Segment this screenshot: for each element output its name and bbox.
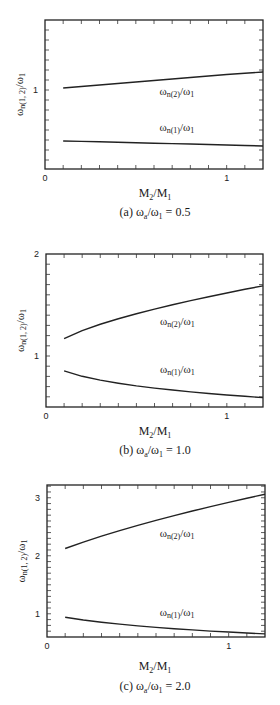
- y-tick-label: 1: [34, 351, 39, 361]
- x-axis-label-c: M2/M1: [0, 659, 280, 675]
- y-tick-label: 2: [34, 249, 39, 259]
- tick-marks: [45, 20, 263, 169]
- y-axis-label: ωn(1, 2)/ω1: [15, 540, 29, 583]
- tick-marks: [47, 485, 265, 637]
- series-label-n1: ωn(1)/ω1: [159, 121, 194, 135]
- x-tick-label: 0: [42, 173, 47, 183]
- chart-c: 01123ωn(1, 2)/ω1ωn(2)/ω1ωn(1)/ω1: [15, 485, 265, 651]
- y-tick-label: 1: [35, 609, 40, 619]
- x-tick-label: 0: [43, 411, 48, 421]
- plot-frame: [45, 20, 263, 169]
- series-label-n2: ωn(2)/ω1: [159, 85, 194, 99]
- x-tick-label: 0: [44, 641, 49, 651]
- series-line-n1: [63, 141, 263, 146]
- caption-b: (b) ωa/ω1 = 1.0: [0, 443, 280, 459]
- x-tick-label: 1: [224, 173, 229, 183]
- series-label-n1: ωn(1)/ω1: [160, 606, 195, 620]
- y-axis-label: ωn(1, 2)/ω1: [14, 309, 28, 352]
- caption-a: (a) ωa/ω1 = 0.5: [0, 205, 280, 221]
- x-axis-label-a: M2/M1: [0, 186, 280, 202]
- x-axis-label-b: M2/M1: [0, 424, 280, 440]
- x-tick-label: 1: [226, 641, 231, 651]
- series-label-n1: ωn(1)/ω1: [160, 363, 195, 377]
- series-line-n2: [64, 286, 263, 339]
- y-axis-label: ωn(1, 2)/ω1: [13, 73, 27, 116]
- caption-c: (c) ωa/ω1 = 2.0: [0, 679, 280, 695]
- series-label-n2: ωn(2)/ω1: [160, 315, 195, 329]
- plots-canvas: 011ωn(1, 2)/ω1ωn(2)/ω1ωn(1)/ω10112ωn(1, …: [0, 0, 280, 705]
- series-line-n1: [65, 617, 265, 634]
- chart-a: 011ωn(1, 2)/ω1ωn(2)/ω1ωn(1)/ω1: [13, 20, 263, 183]
- tick-marks: [46, 254, 263, 407]
- y-tick-label: 1: [33, 85, 38, 95]
- series-label-n2: ωn(2)/ω1: [160, 527, 195, 541]
- y-tick-label: 3: [35, 493, 40, 503]
- y-tick-label: 2: [35, 551, 40, 561]
- chart-b: 0112ωn(1, 2)/ω1ωn(2)/ω1ωn(1)/ω1: [14, 249, 263, 421]
- x-tick-label: 1: [224, 411, 229, 421]
- plot-frame: [47, 485, 265, 637]
- plot-frame: [46, 254, 263, 407]
- series-line-n2: [65, 494, 265, 548]
